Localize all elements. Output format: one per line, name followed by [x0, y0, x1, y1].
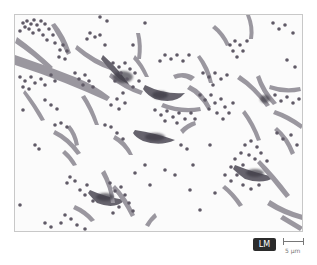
scale-bar-right-cap [303, 238, 304, 245]
scale-bar-line [283, 241, 303, 242]
micrograph-image [14, 14, 303, 232]
micrograph-svg [15, 15, 303, 232]
lm-badge: LM [253, 238, 276, 251]
scale-bar: 5 µm [283, 237, 304, 257]
scale-bar-label: 5 µm [285, 247, 300, 254]
